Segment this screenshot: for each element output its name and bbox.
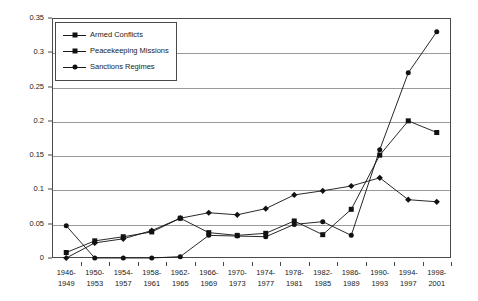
data-point-marker [377, 147, 382, 152]
legend-item-sanctions-regimes: Sanctions Regimes [56, 59, 176, 75]
data-point-marker [348, 183, 354, 189]
x-axis-tick [138, 262, 139, 266]
chart-legend: Armed Conflicts Peacekeeping Missions Sa… [55, 22, 177, 81]
series-line [66, 178, 437, 258]
data-point-marker [434, 29, 439, 34]
legend-marker-square-icon [63, 46, 86, 56]
data-point-marker [320, 232, 325, 237]
data-point-marker [121, 256, 126, 261]
x-axis-tick [195, 262, 196, 266]
data-point-marker [235, 234, 240, 239]
x-axis-tick-label: 1998-2001 [417, 268, 457, 289]
data-point-marker [64, 223, 69, 228]
x-axis-tick [223, 262, 224, 266]
series-armed-conflicts [63, 175, 440, 261]
legend-item-peacekeeping-missions: Peacekeeping Missions [56, 43, 176, 59]
x-axis-tick [166, 262, 167, 266]
legend-marker-circle-icon [63, 62, 86, 72]
data-point-marker [234, 212, 240, 218]
data-point-marker [434, 199, 440, 205]
x-axis-tick [451, 262, 452, 266]
x-axis-tick [423, 262, 424, 266]
data-point-marker [349, 207, 354, 212]
data-point-marker [434, 130, 439, 135]
line-chart: 00.050.10.150.20.250.30.35 1946-19491950… [0, 0, 478, 301]
data-point-marker [63, 255, 69, 261]
x-axis-tick [366, 262, 367, 266]
x-axis-tick [394, 262, 395, 266]
data-point-marker [206, 210, 212, 216]
legend-label: Sanctions Regimes [90, 63, 155, 71]
data-point-marker [263, 206, 269, 212]
data-point-marker [149, 229, 154, 234]
data-point-marker [406, 70, 411, 75]
x-axis: 1946-19491950-19531954-19571958-19611962… [0, 262, 478, 301]
data-point-marker [291, 192, 297, 198]
data-point-marker [149, 256, 154, 261]
data-point-marker [92, 238, 97, 243]
data-point-marker [92, 256, 97, 261]
x-axis-tick [280, 262, 281, 266]
legend-marker-diamond-icon [63, 30, 86, 40]
data-point-marker [320, 219, 325, 224]
legend-label: Armed Conflicts [90, 31, 143, 39]
series-line [66, 121, 437, 253]
x-axis-tick [81, 262, 82, 266]
data-point-marker [121, 234, 126, 239]
legend-item-armed-conflicts: Armed Conflicts [56, 27, 176, 43]
legend-label: Peacekeeping Missions [90, 47, 169, 55]
data-point-marker [206, 233, 211, 238]
x-axis-tick [309, 262, 310, 266]
data-point-marker [178, 216, 183, 221]
series-peacekeeping-missions [64, 118, 440, 255]
data-point-marker [64, 250, 69, 255]
data-point-marker [292, 222, 297, 227]
x-axis-tick [109, 262, 110, 266]
data-point-marker [320, 188, 326, 194]
data-point-marker [349, 233, 354, 238]
data-point-marker [406, 118, 411, 123]
data-point-marker [263, 234, 268, 239]
x-axis-tick [337, 262, 338, 266]
x-axis-tick [252, 262, 253, 266]
data-point-marker [178, 254, 183, 259]
